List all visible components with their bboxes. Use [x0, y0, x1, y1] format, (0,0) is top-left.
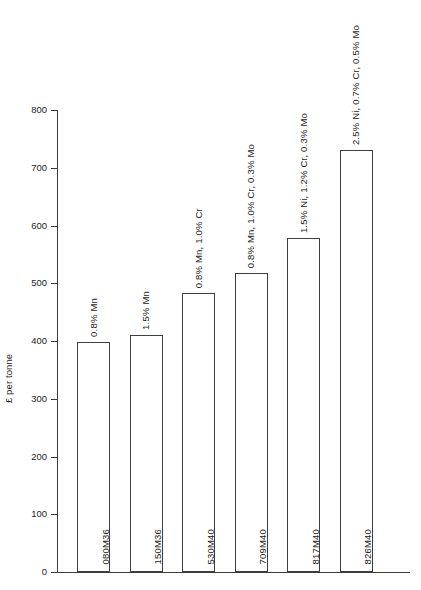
y-axis-tick-label: 0 [17, 567, 47, 577]
y-axis-tick-label: 100 [17, 509, 47, 519]
y-axis-tick [51, 283, 57, 284]
y-axis-tick [51, 572, 57, 573]
bar-annotation-label: 1.5% Ni, 1.2% Cr, 0.3% Mo [298, 113, 310, 233]
y-axis-tick [51, 399, 57, 400]
y-axis-tick-label: 300 [17, 394, 47, 404]
y-axis-tick-label: 800 [17, 105, 47, 115]
bar: 817M40 [287, 238, 320, 572]
bar-category-label: 080M36 [99, 529, 110, 565]
y-axis-tick [51, 514, 57, 515]
y-axis-tick [51, 341, 57, 342]
bar-category-label: 530M40 [204, 529, 215, 565]
y-axis-tick [51, 226, 57, 227]
y-axis-line [57, 110, 58, 572]
x-axis-line [57, 572, 410, 573]
bar-category-label: 826M40 [362, 529, 373, 565]
y-axis-title: £ per tonne [0, 318, 18, 438]
bar-annotation-label: 0.8% Mn, 1.0% Cr, 0.3% Mo [245, 144, 257, 268]
bar: 080M36 [77, 342, 110, 572]
bar-annotation-label: 0.8% Mn, 1.0% Cr [193, 208, 205, 288]
y-axis-tick [51, 457, 57, 458]
y-axis-tick-label: 700 [17, 163, 47, 173]
bar-annotation-label: 0.8% Mn [88, 298, 100, 337]
y-axis-tick-label: 500 [17, 278, 47, 288]
y-axis-tick [51, 168, 57, 169]
bar-chart: £ per tonne 0100200300400500600700800 08… [0, 0, 421, 590]
bar-annotation-label: 1.5% Mn [140, 291, 152, 330]
y-axis-tick-label: 200 [17, 452, 47, 462]
bar-category-label: 709M40 [257, 529, 268, 565]
y-axis-tick-label: 400 [17, 336, 47, 346]
bar: 150M36 [130, 335, 163, 572]
bar: 530M40 [182, 293, 215, 572]
bar-annotation-label: 2.5% Ni, 0.7% Cr, 0.5% Mo [350, 25, 362, 145]
bar: 709M40 [235, 273, 268, 572]
bar-category-label: 150M36 [152, 529, 163, 565]
bar: 826M40 [340, 150, 373, 572]
bar-category-label: 817M40 [309, 529, 320, 565]
y-axis-tick-label: 600 [17, 221, 47, 231]
y-axis-tick [51, 110, 57, 111]
